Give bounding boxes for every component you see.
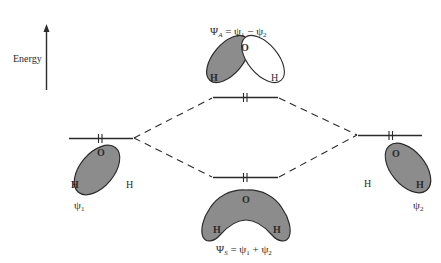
energy-axis-arrow — [44, 24, 50, 90]
psi2-atom-H-distant: H — [364, 179, 371, 189]
psi1-atom-O: O — [97, 148, 105, 158]
energy-level-psi2 — [358, 131, 422, 140]
psiA-symbol: Ψ — [210, 25, 218, 37]
energy-axis-label: Energy — [13, 54, 42, 64]
psi2-subscript: 2 — [420, 205, 424, 213]
psiA-eq-part1: = ψ — [222, 25, 241, 37]
psiS-eq-sub2: 2 — [268, 249, 272, 257]
psiS-atom-H-right: H — [273, 225, 281, 235]
psi2-atom-H: H — [416, 180, 424, 190]
psiA-atom-H-right: H — [271, 73, 278, 83]
psiA-atom-H-left: H — [210, 73, 218, 83]
psiS-symbol: Ψ — [216, 243, 224, 255]
psi1-subscript: 1 — [81, 205, 85, 213]
psi2-orbital-lobe — [376, 135, 439, 201]
psi1-label: ψ1 — [74, 200, 84, 213]
psiA-equation: ΨA = ψ1 − ψ2 — [210, 26, 267, 39]
psi2-label: ψ2 — [413, 200, 423, 213]
correlation-lines — [134, 98, 357, 177]
psiA-atom-O: O — [241, 43, 249, 53]
energy-level-psiA — [213, 93, 278, 102]
psiS-atom-O: O — [242, 195, 250, 205]
psi1-atom-H: H — [71, 180, 79, 190]
psiS-eq-part1: = ψ — [228, 243, 247, 255]
psiA-eq-sub2: 2 — [263, 31, 267, 39]
energy-level-psi1 — [69, 134, 133, 143]
energy-level-psiS — [213, 173, 278, 182]
psiS-atom-H-left: H — [213, 225, 221, 235]
psi1-atom-H-distant: H — [126, 180, 133, 190]
psiS-eq-part2: + ψ — [250, 243, 269, 255]
psiS-equation: ΨS = ψ1 + ψ2 — [216, 244, 272, 257]
psiA-eq-part2: − ψ — [245, 25, 264, 37]
psi1-symbol: ψ — [74, 199, 81, 211]
psi2-symbol: ψ — [413, 199, 420, 211]
psi2-atom-O: O — [392, 149, 400, 159]
